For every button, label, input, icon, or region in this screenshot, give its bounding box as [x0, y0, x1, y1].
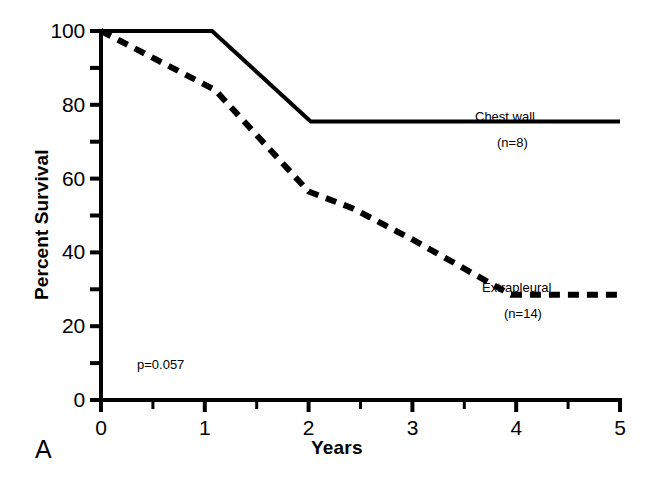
series-paths	[101, 31, 620, 295]
x-tick-label: 0	[81, 417, 121, 438]
y-tick-label: 100	[39, 20, 85, 41]
x-tick-label: 3	[392, 417, 432, 438]
x-tick-label: 4	[496, 417, 536, 438]
y-tick-label: 20	[39, 315, 85, 336]
series-line-extrapleural	[101, 31, 620, 295]
x-axis-label: Years	[311, 438, 363, 457]
series-label-chest-wall: Chest wall	[475, 110, 535, 123]
series-sublabel-chest-wall: (n=8)	[497, 136, 528, 149]
y-tick-label: 0	[39, 389, 85, 410]
series-label-extrapleural: Extrapleural	[482, 281, 551, 294]
series-sublabel-extrapleural: (n=14)	[504, 307, 542, 320]
x-tick-label: 2	[289, 417, 329, 438]
y-tick-label: 80	[39, 94, 85, 115]
survival-curve-figure: 020406080100 012345 Percent Survival Yea…	[0, 0, 652, 478]
x-tick-label: 5	[600, 417, 640, 438]
y-axis-label: Percent Survival	[32, 149, 51, 300]
panel-letter: A	[35, 437, 52, 462]
plot-area	[0, 0, 652, 478]
p-value-annotation: p=0.057	[137, 358, 184, 371]
series-line-chest-wall	[101, 31, 620, 121]
x-tick-label: 1	[185, 417, 225, 438]
